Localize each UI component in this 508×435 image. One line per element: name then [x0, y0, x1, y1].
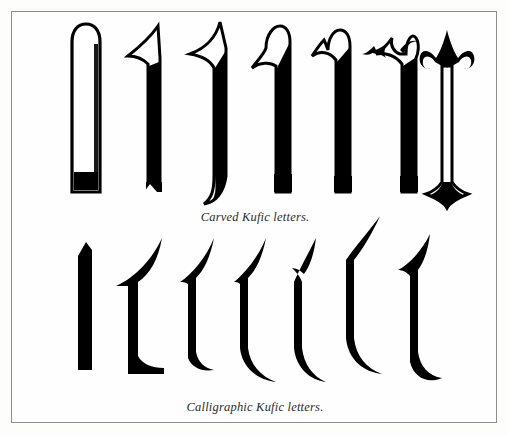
- plate-frame: Carved Kufic letters.: [11, 11, 497, 423]
- carved-letters-group: [12, 18, 498, 208]
- caption-calligraphic-kufic: Calligraphic Kufic letters.: [12, 400, 498, 415]
- carved-letter-1: [64, 20, 110, 200]
- carved-letter-3: [184, 18, 240, 208]
- calligraphic-letters-group: [12, 230, 498, 390]
- calligraphic-letter-6: [342, 214, 390, 382]
- caption-carved-kufic: Carved Kufic letters.: [12, 210, 498, 225]
- calligraphic-letter-2: [116, 236, 172, 376]
- carved-letter-5: [306, 26, 354, 200]
- calligraphic-letter-5: [290, 236, 334, 386]
- carved-letter-2: [124, 22, 172, 198]
- carved-letter-6: [360, 24, 422, 200]
- calligraphic-letter-4: [234, 236, 282, 386]
- illustration-plate: Carved Kufic letters.: [0, 0, 508, 435]
- calligraphic-letters-row: [12, 230, 498, 390]
- carved-letter-4: [246, 22, 294, 200]
- calligraphic-letter-7: [398, 230, 446, 390]
- carved-letter-7: [416, 22, 478, 208]
- calligraphic-letter-1: [70, 242, 100, 374]
- calligraphic-letter-3: [180, 236, 224, 376]
- carved-letters-row: [12, 18, 498, 208]
